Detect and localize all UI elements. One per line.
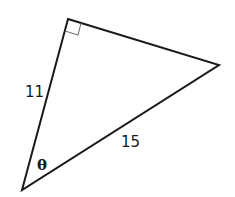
side-label-left: 11	[25, 83, 44, 101]
triangle-diagram: 11 15 θ	[0, 0, 235, 197]
triangle	[22, 19, 219, 190]
angle-label-theta: θ	[37, 156, 47, 174]
side-label-hypotenuse: 15	[121, 133, 140, 151]
